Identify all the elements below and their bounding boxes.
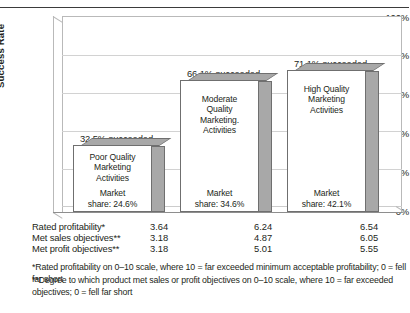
bar-3-market-share: Market share: 42.1%: [287, 188, 366, 209]
bar-2-label-line3: Marketing.: [180, 115, 259, 125]
top-cropped-text-label: · · · ·: [0, 0, 17, 1]
gridline-80: [62, 55, 402, 56]
bar-1-label-line2: Marketing: [73, 162, 152, 172]
table-cell-moderate: 5.01: [254, 244, 272, 255]
bar-3-side-face: [366, 71, 379, 212]
footnote-two: **Degree to which product met sales or p…: [32, 275, 410, 298]
table-row: Met profit objectives** 3.18 5.01 5.55: [32, 244, 407, 255]
bar-1-side-face: [152, 146, 165, 212]
table-row-label: Met profit objectives**: [32, 244, 119, 255]
bar-high-quality[interactable]: High Quality Marketing Activities Market…: [287, 70, 366, 212]
bar-1-label-line1: Poor Quality: [73, 152, 152, 162]
bar-3-share-line2: share: 42.1%: [287, 199, 366, 209]
axis-bottom-edge: [53, 212, 63, 219]
top-cropped-text: · · · ·: [0, 0, 409, 7]
bar-2-label-line4: Activities: [180, 125, 259, 135]
bar-3-share-line1: Market: [287, 188, 366, 198]
bar-3-label-line1: High Quality: [287, 84, 366, 94]
bar-3-label-line3: Activities: [287, 105, 366, 115]
bar-moderate-quality[interactable]: Moderate Quality Marketing. Activities M…: [180, 80, 259, 212]
top-divider-rule: [0, 7, 409, 8]
bar-2-label-line1: Moderate: [180, 94, 259, 104]
bar-1-label-line3: Activities: [73, 173, 152, 183]
table-cell-poor: 3.18: [150, 244, 168, 255]
metrics-table: Rated profitability* 3.64 6.24 6.54 Met …: [32, 222, 407, 255]
floor-front-edge: [53, 212, 402, 213]
bar-2-side-face: [259, 81, 272, 212]
bar-1-share-line1: Market: [73, 188, 152, 198]
bar-2-market-share: Market share: 34.6%: [180, 188, 259, 209]
bar-1-market-share: Market share: 24.6%: [73, 188, 152, 209]
bar-2-share-line2: share: 34.6%: [180, 199, 259, 209]
bar-1-share-line2: share: 24.6%: [73, 199, 152, 209]
y-axis-title: Success Rate: [0, 24, 6, 88]
axis-vertical-line: [53, 16, 54, 212]
bar-2-label: Moderate Quality Marketing. Activities: [180, 94, 259, 136]
table-cell-high: 5.55: [360, 244, 378, 255]
bar-2-label-line2: Quality: [180, 104, 259, 114]
bar-3-label-line2: Marketing: [287, 94, 366, 104]
bar-2-share-line1: Market: [180, 188, 259, 198]
bar-1-label: Poor Quality Marketing Activities: [73, 152, 152, 183]
bar-3-label: High Quality Marketing Activities: [287, 84, 366, 115]
bar-poor-quality[interactable]: Poor Quality Marketing Activities Market…: [73, 145, 152, 212]
